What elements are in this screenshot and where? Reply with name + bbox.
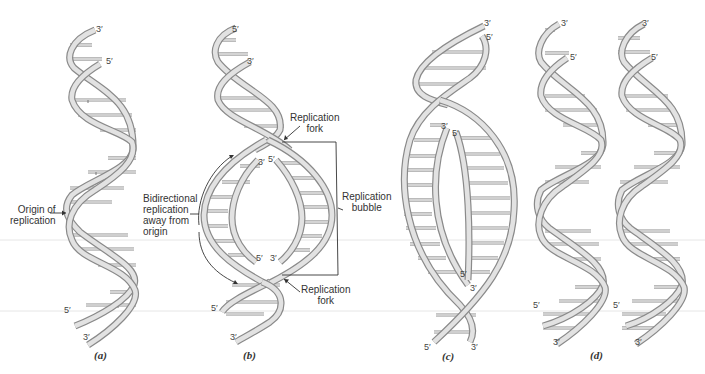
label-line: Replication xyxy=(342,191,391,202)
panel-a-helix xyxy=(50,30,136,345)
strand-end-3prime: 3′ xyxy=(561,18,568,28)
strand-end-3prime: 3′ xyxy=(635,337,642,347)
strand-end-5prime: 5′ xyxy=(424,342,431,352)
strand-end-3prime: 3′ xyxy=(230,332,237,342)
strand-end-3prime: 3′ xyxy=(258,157,265,167)
label-line: Replication xyxy=(301,284,350,295)
strand-end-3prime: 3′ xyxy=(484,18,491,28)
strand-end-5prime: 5′ xyxy=(232,24,239,34)
bidirectional-replication-label: Bidirectional replication away from orig… xyxy=(143,193,197,237)
strand-end-5prime: 5′ xyxy=(256,253,263,263)
strand-end-3prime: 3′ xyxy=(642,18,649,28)
label-line: bubble xyxy=(342,202,391,213)
label-line: away from xyxy=(143,215,197,226)
strand-end-5prime: 5′ xyxy=(570,52,577,62)
strand-end-3prime: 3′ xyxy=(247,56,254,66)
panel-caption-c: (c) xyxy=(442,350,454,362)
replication-bubble-label: Replication bubble xyxy=(342,191,391,213)
origin-of-replication-label: Origin of replication xyxy=(10,204,56,226)
strand-end-5prime: 5′ xyxy=(64,305,71,315)
label-line: Origin of xyxy=(10,204,56,215)
strand-end-5prime: 5′ xyxy=(460,269,467,279)
panel-caption-a: (a) xyxy=(94,349,107,361)
label-line: fork xyxy=(290,123,339,134)
label-line: replication xyxy=(10,215,56,226)
panel-c-partial-replication xyxy=(404,26,514,342)
panel-caption-d: (d) xyxy=(590,349,603,361)
strand-end-5prime: 5′ xyxy=(211,303,218,313)
strand-end-5prime: 5′ xyxy=(533,300,540,310)
panel-caption-b: (b) xyxy=(243,349,256,361)
panel-d-daughter-helix-1 xyxy=(537,24,605,344)
strand-end-3prime: 3′ xyxy=(553,337,560,347)
strand-end-3prime: 3′ xyxy=(83,332,90,342)
label-line: Replication xyxy=(290,112,339,123)
strand-end-3prime: 3′ xyxy=(470,283,477,293)
strand-end-3prime: 3′ xyxy=(471,342,478,352)
strand-end-3prime: 3′ xyxy=(96,24,103,34)
replication-fork-bottom-label: Replication fork xyxy=(301,284,350,306)
strand-end-5prime: 5′ xyxy=(651,52,658,62)
strand-end-5prime: 5′ xyxy=(452,128,459,138)
strand-end-3prime: 3′ xyxy=(441,121,448,131)
label-line: Bidirectional xyxy=(143,193,197,204)
panel-d-daughter-helix-2 xyxy=(618,24,684,344)
strand-end-5prime: 5′ xyxy=(613,300,620,310)
replication-fork-top-label: Replication fork xyxy=(290,112,339,134)
label-line: replication xyxy=(143,204,197,215)
label-line: fork xyxy=(301,295,350,306)
label-line: origin xyxy=(143,226,197,237)
strand-end-5prime: 5′ xyxy=(106,56,113,66)
strand-end-3prime: 3′ xyxy=(270,253,277,263)
strand-end-5prime: 5′ xyxy=(486,32,493,42)
strand-end-5prime: 5′ xyxy=(268,154,275,164)
